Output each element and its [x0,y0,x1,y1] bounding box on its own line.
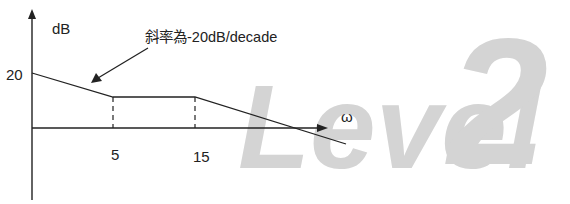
x-axis-label: ω [341,108,353,125]
annotation-arrow-icon [91,73,102,83]
y-axis-label: dB [52,20,70,37]
slope-annotation: 斜率為-20dB/decade [145,29,277,45]
watermark-number: 2 [445,1,548,202]
y-tick-label-20: 20 [6,66,23,83]
x-tick-label-15: 15 [193,148,210,165]
x-tick-label-5: 5 [111,146,119,163]
diagram-svg: Level 2 dB 20 斜率為-20dB/decade ω 5 15 [0,0,570,204]
watermark: Level 2 [238,1,548,202]
annotation-arrow-line [98,48,148,78]
y-axis-arrow-icon [28,9,36,19]
bode-diagram: Level 2 dB 20 斜率為-20dB/decade ω 5 15 [0,0,570,204]
